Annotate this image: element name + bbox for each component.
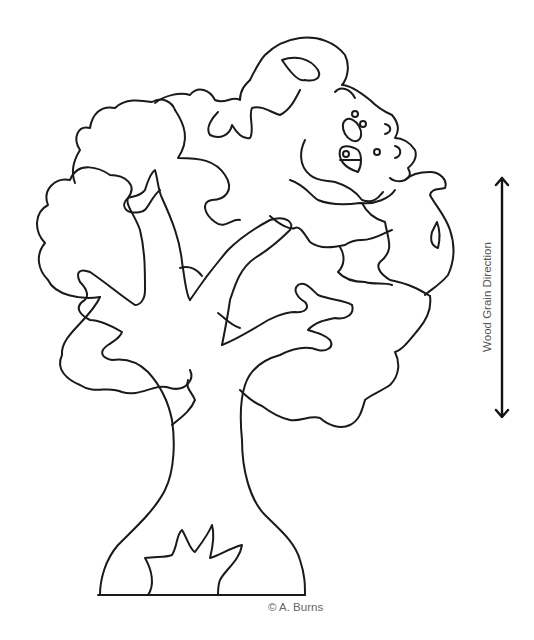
tree-trunk-left xyxy=(78,170,190,595)
grass-tuft xyxy=(145,525,242,595)
tree-knot-piece xyxy=(218,313,240,328)
monkey-ear-3 xyxy=(395,146,400,158)
monkey-muzzle-1 xyxy=(339,116,365,145)
monkey-body xyxy=(250,38,416,182)
puzzle-pattern xyxy=(0,0,534,640)
monkey-arm xyxy=(208,90,300,138)
right-foliage-piece xyxy=(362,203,430,296)
monkey-tail-inner xyxy=(431,222,439,248)
tree-trunk-right xyxy=(242,440,305,595)
monkey-ear-2 xyxy=(385,124,390,134)
right-foliage-interlock xyxy=(338,247,392,285)
monkey-eye-2 xyxy=(360,121,366,127)
monkey-eye-3 xyxy=(343,151,349,157)
upper-left-foliage-piece xyxy=(73,100,175,183)
monkey-muzzle-2 xyxy=(340,146,361,172)
monkey-eye-4 xyxy=(374,149,380,155)
tree-small-branch xyxy=(222,284,352,345)
credit-text: © A. Burns xyxy=(268,601,323,613)
tree-branch-right xyxy=(190,218,291,345)
monkey-eye-1 xyxy=(352,111,358,117)
right-foliage-lower xyxy=(240,296,430,427)
monkey-head-ear xyxy=(335,89,355,98)
monkey-belly xyxy=(301,140,383,201)
upper-center-foliage-piece xyxy=(155,80,250,103)
monkey-tail-top xyxy=(282,58,319,81)
monkey-tail xyxy=(405,172,454,295)
grain-direction-label: Wood Grain Direction xyxy=(481,217,497,377)
